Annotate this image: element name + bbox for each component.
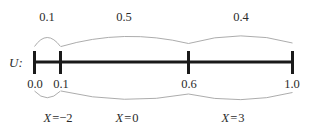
outcome-num-2: 0 — [132, 111, 138, 125]
outcome-num-1: −2 — [59, 111, 72, 125]
outcome-label-segment-3: X = 3 — [221, 112, 244, 125]
outcome-eq-3: = — [230, 111, 237, 125]
top-brace-segment-2 — [61, 36, 189, 46]
tick-value-1-0: 1.0 — [284, 78, 300, 91]
probability-label-segment-3: 0.4 — [233, 11, 249, 24]
tick-value-0-1: 0.1 — [53, 78, 69, 91]
outcome-eq-1: = — [52, 111, 59, 125]
outcome-num-3: 3 — [238, 111, 244, 125]
outcome-label-segment-1: X =−2 — [43, 112, 72, 125]
bottom-brace-segment-3 — [189, 93, 293, 100]
bottom-brace-segment-2 — [61, 91, 189, 99]
outcome-var-2: X — [115, 111, 123, 125]
outcome-var-3: X — [221, 111, 229, 125]
probability-label-segment-1: 0.1 — [39, 11, 55, 24]
bottom-brace-segment-1 — [35, 91, 61, 98]
outcome-label-segment-2: X = 0 — [115, 112, 138, 125]
tick-value-0-0: 0.0 — [27, 78, 43, 91]
outcome-eq-2: = — [124, 111, 131, 125]
number-line-figure: U: 0.1 0.5 0.4 0.0 0.1 0.6 1.0 X =−2 X =… — [0, 0, 317, 130]
top-brace-segment-3 — [189, 36, 293, 44]
top-brace-segment-1 — [35, 38, 61, 47]
tick-value-0-6: 0.6 — [181, 78, 197, 91]
outcome-var-1: X — [43, 111, 51, 125]
probability-label-segment-2: 0.5 — [116, 11, 132, 24]
